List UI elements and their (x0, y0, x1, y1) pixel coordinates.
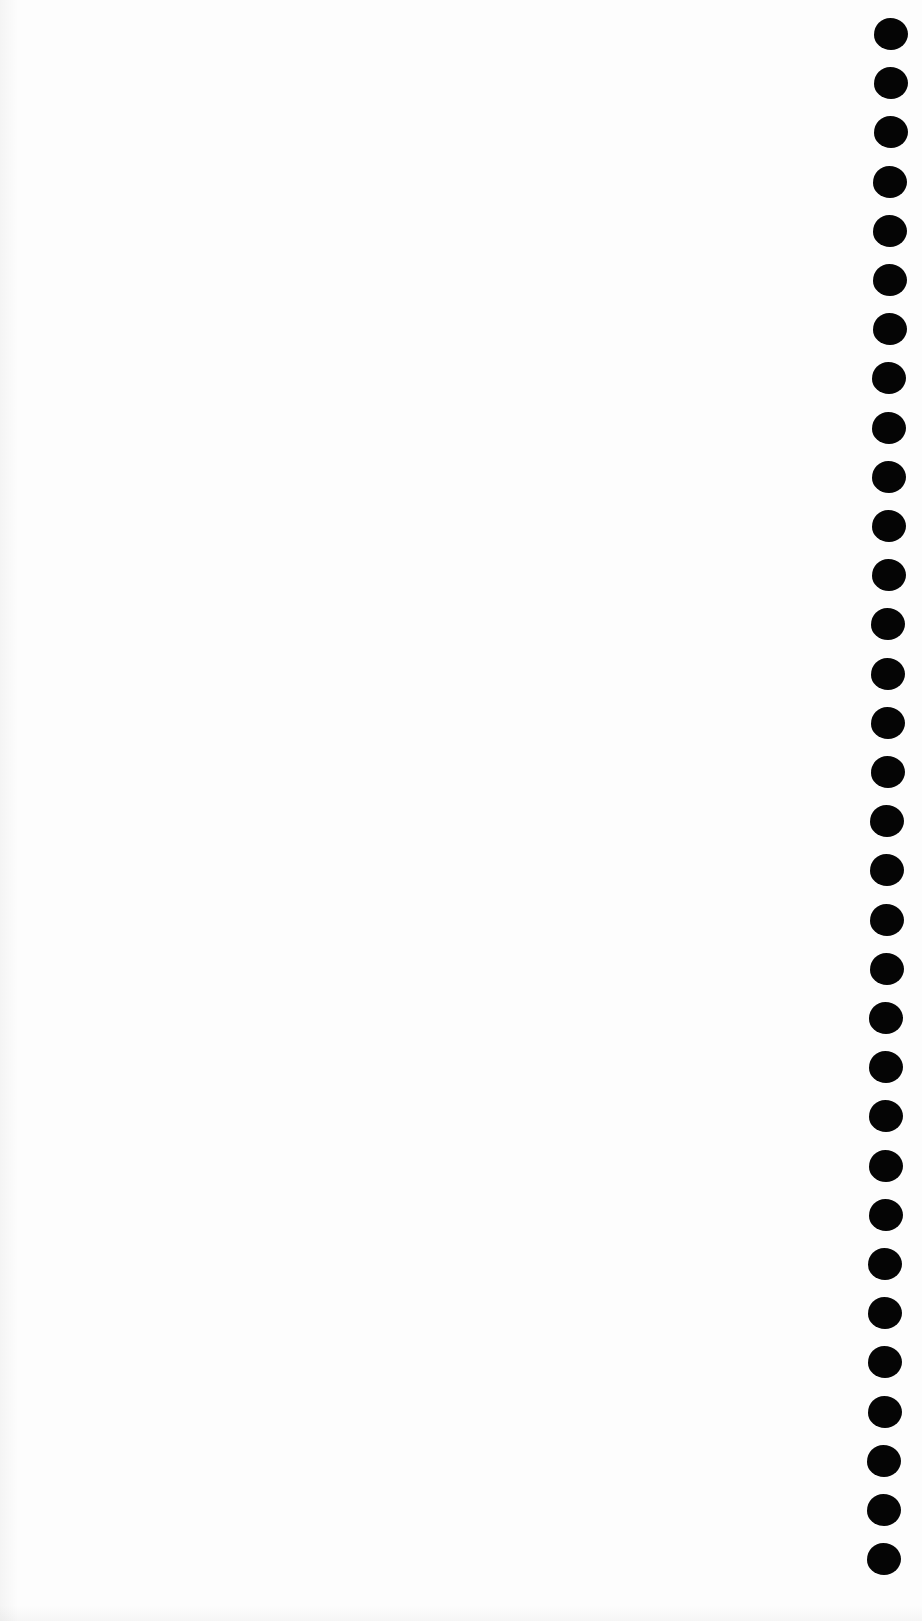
punch-hole (867, 1494, 901, 1526)
punch-hole (868, 1396, 902, 1428)
punch-hole (873, 264, 907, 296)
punch-hole (873, 166, 907, 198)
punch-hole (874, 67, 908, 99)
punch-hole (873, 215, 907, 247)
punch-hole (867, 1543, 901, 1575)
punch-hole (871, 707, 905, 739)
punch-hole (867, 1445, 901, 1477)
punch-hole (871, 756, 905, 788)
punch-hole (874, 116, 908, 148)
punch-hole (872, 461, 906, 493)
punch-hole (869, 1150, 903, 1182)
blank-paper-sheet (0, 0, 922, 1621)
punch-hole (872, 510, 906, 542)
punch-hole (872, 412, 906, 444)
punch-hole (872, 559, 906, 591)
punch-hole (870, 953, 904, 985)
punch-hole (869, 1199, 903, 1231)
punch-hole (870, 904, 904, 936)
punch-hole (873, 313, 907, 345)
punch-hole (874, 18, 908, 50)
punch-hole (871, 658, 905, 690)
